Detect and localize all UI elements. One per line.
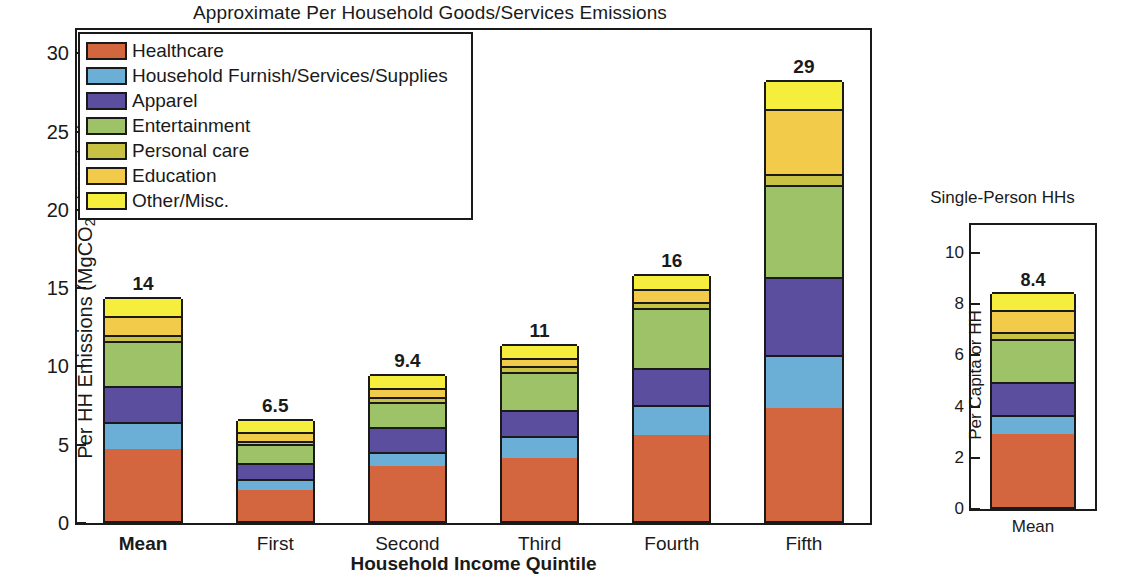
y-tick-label: 10 <box>930 243 964 263</box>
bar-segment[interactable] <box>238 479 313 490</box>
bar-segment[interactable] <box>992 310 1075 332</box>
bar-segment[interactable] <box>105 335 180 341</box>
bar-segment[interactable] <box>634 289 709 302</box>
bar-segment[interactable] <box>992 382 1075 415</box>
bar-segment[interactable] <box>370 427 445 452</box>
legend-label: Personal care <box>132 140 249 162</box>
bar-segment[interactable] <box>766 355 841 408</box>
bar-segment[interactable] <box>634 435 709 521</box>
inset-plot-area: 02468108.4Mean Per Capita or HH <box>969 223 1097 511</box>
bar-segment[interactable] <box>502 372 577 410</box>
legend-swatch-icon <box>86 142 127 160</box>
bar-segment[interactable] <box>105 316 180 335</box>
stacked-bar[interactable] <box>500 346 579 523</box>
bar-segment[interactable] <box>238 432 313 441</box>
bar-segment[interactable] <box>992 332 1075 340</box>
y-tick-label: 25 <box>23 120 69 143</box>
bar-segment[interactable] <box>370 388 445 397</box>
bar-segment[interactable] <box>105 422 180 449</box>
bar-segment[interactable] <box>105 341 180 386</box>
bar-total-label: 29 <box>744 56 864 78</box>
stacked-bar[interactable] <box>632 276 711 523</box>
legend-swatch-icon <box>86 167 127 185</box>
bar-total-label: 14 <box>83 273 203 295</box>
bar-segment[interactable] <box>238 419 313 432</box>
stacked-bar[interactable] <box>103 299 182 523</box>
legend-item[interactable]: Healthcare <box>86 38 465 63</box>
bar-segment[interactable] <box>634 302 709 308</box>
legend-label: Apparel <box>132 90 198 112</box>
bar-segment[interactable] <box>502 366 577 372</box>
legend-swatch-icon <box>86 117 127 135</box>
bar-segment[interactable] <box>370 466 445 521</box>
legend-item[interactable]: Education <box>86 163 465 188</box>
bar-segment[interactable] <box>105 297 180 316</box>
x-tick-label: Second <box>375 533 439 555</box>
bar-segment[interactable] <box>502 344 577 358</box>
bar-segment[interactable] <box>370 397 445 402</box>
stacked-bar[interactable] <box>990 294 1077 509</box>
bar-segment[interactable] <box>634 405 709 435</box>
x-tick-label: Fourth <box>644 533 699 555</box>
bar-segment[interactable] <box>238 490 313 521</box>
bar-segment[interactable] <box>766 80 841 110</box>
bar-segment[interactable] <box>370 402 445 427</box>
legend-item[interactable]: Other/Misc. <box>86 188 465 213</box>
chart-title: Approximate Per Household Goods/Services… <box>70 2 790 24</box>
y-tick-mark <box>971 508 980 510</box>
bar-segment[interactable] <box>992 415 1075 434</box>
bar-segment[interactable] <box>992 292 1075 310</box>
legend-item[interactable]: Personal care <box>86 138 465 163</box>
bar-segment[interactable] <box>370 374 445 388</box>
stacked-bar[interactable] <box>368 376 447 523</box>
bar-segment[interactable] <box>238 441 313 444</box>
legend-item[interactable]: Apparel <box>86 88 465 113</box>
bar-segment[interactable] <box>766 109 841 173</box>
legend-swatch-icon <box>86 67 127 85</box>
bar-segment[interactable] <box>634 368 709 406</box>
bar-total-label: 9.4 <box>347 350 467 372</box>
bar-segment[interactable] <box>766 185 841 277</box>
legend-swatch-icon <box>86 92 127 110</box>
bar-segment[interactable] <box>105 449 180 521</box>
y-tick-label: 10 <box>23 355 69 378</box>
main-x-axis-label: Household Income Quintile <box>75 553 872 575</box>
stacked-bar[interactable] <box>764 82 843 523</box>
legend-label: Education <box>132 165 217 187</box>
bar-segment[interactable] <box>502 436 577 458</box>
y-axis-label-pre: Per HH Emissions (MgCO <box>74 226 96 458</box>
bar-segment[interactable] <box>502 358 577 366</box>
legend-item[interactable]: Household Furnish/Services/Supplies <box>86 63 465 88</box>
bar-segment[interactable] <box>502 458 577 521</box>
legend-item[interactable]: Entertainment <box>86 113 465 138</box>
bar-segment[interactable] <box>634 308 709 367</box>
inset-title: Single-Person HHs <box>880 188 1125 208</box>
bar-segment[interactable] <box>238 444 313 463</box>
bar-segment[interactable] <box>992 434 1075 507</box>
x-tick-label: Mean <box>119 533 168 555</box>
legend-label: Household Furnish/Services/Supplies <box>132 65 448 87</box>
bar-total-label: 11 <box>480 320 600 342</box>
inset-plot-inner: 02468108.4Mean <box>971 225 1095 509</box>
bar-segment[interactable] <box>992 339 1075 381</box>
bar-segment[interactable] <box>634 274 709 290</box>
bar-total-label: 8.4 <box>973 270 1093 291</box>
legend: HealthcareHousehold Furnish/Services/Sup… <box>78 32 473 220</box>
bar-segment[interactable] <box>766 408 841 521</box>
x-tick-label: First <box>257 533 294 555</box>
x-tick-label: Third <box>518 533 561 555</box>
bar-segment[interactable] <box>238 463 313 479</box>
bar-segment[interactable] <box>370 452 445 466</box>
bar-segment[interactable] <box>766 277 841 355</box>
legend-label: Entertainment <box>132 115 250 137</box>
y-tick-label: 20 <box>23 198 69 221</box>
y-tick-label: 0 <box>23 512 69 535</box>
y-tick-label: 8 <box>930 294 964 314</box>
legend-label: Healthcare <box>132 40 224 62</box>
y-tick-label: 2 <box>930 448 964 468</box>
bar-segment[interactable] <box>766 174 841 185</box>
bar-segment[interactable] <box>105 386 180 422</box>
stacked-bar[interactable] <box>236 421 315 523</box>
legend-label: Other/Misc. <box>132 190 229 212</box>
bar-segment[interactable] <box>502 410 577 437</box>
